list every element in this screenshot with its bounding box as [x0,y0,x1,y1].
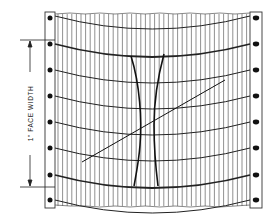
sprocket-hole-icon [253,120,259,125]
face-boundary-line [55,175,250,188]
dimension-top-arrow-icon [28,41,32,47]
sprocket-hole-icon [48,42,53,47]
sprocket-hole-icon [48,173,53,178]
curved-grid-line [55,70,250,83]
sprocket-hole-icon [48,198,53,203]
sprocket-hole-icon [253,68,259,73]
face-width-diagram [0,0,275,219]
sprocket-hole-icon [48,68,53,73]
face-boundary-line [55,44,250,57]
sprocket-hole-icon [48,146,53,151]
sprocket-hole-icon [253,173,259,178]
vertical-grid-lines [58,14,247,206]
sprocket-hole-icon [253,146,259,151]
contact-left-boundary [131,56,141,186]
sprocket-hole-icon [48,94,53,99]
sprocket-hole-icon [253,16,259,21]
dimension-bottom-arrow-icon [28,180,32,186]
face-width-dimension [20,40,55,187]
right-sprocket-strip [250,12,262,208]
curved-grid-line [55,122,250,135]
top-torn-edge [55,13,250,14]
face-width-label: 1" FACE WIDTH [27,73,34,155]
curved-grid-line [55,16,250,29]
sprocket-hole-icon [48,120,53,125]
sprocket-hole-icon [253,94,259,99]
sprocket-hole-icon [253,42,259,47]
diagonal-reference-line [82,80,225,162]
sprocket-hole-icon [48,16,53,21]
sprocket-hole-icon [253,198,259,203]
curved-grid-line [55,96,250,109]
left-sprocket-strip [45,12,55,208]
curved-grid-line [55,148,250,161]
curved-grid-lines [55,16,250,213]
